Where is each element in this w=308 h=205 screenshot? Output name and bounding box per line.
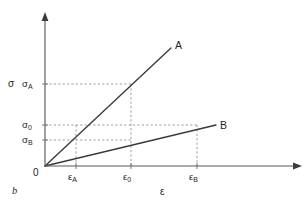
- curve-label-b: B: [220, 120, 227, 131]
- x-tick-label-epsilon-b: εB: [189, 172, 198, 182]
- origin-label-text: 0: [33, 167, 39, 178]
- y-tick-sigma-b-sub: B: [28, 139, 33, 146]
- y-tick-sigma-0-sub: 0: [28, 124, 32, 131]
- guide-lines: [45, 84, 197, 166]
- y-tick-sigma-a-base: σ: [22, 78, 28, 89]
- curve-b-line: [45, 125, 216, 166]
- y-tick-label-sigma-b: σB: [22, 135, 33, 145]
- data-curves: [45, 48, 216, 166]
- x-axis-arrow-icon: [293, 163, 302, 170]
- curve-label-b-text: B: [220, 119, 227, 131]
- y-tick-label-sigma-a: σA: [22, 79, 33, 89]
- x-tick-epsilon-b-sub: B: [193, 176, 198, 183]
- curve-a-line: [45, 48, 171, 166]
- curve-label-a: A: [175, 40, 182, 51]
- y-axis-label: σ: [8, 79, 14, 89]
- y-tick-label-sigma-0: σ0: [22, 120, 32, 130]
- x-tick-label-epsilon-a: εA: [68, 172, 77, 182]
- y-tick-sigma-a-sub: A: [28, 83, 33, 90]
- x-axis-label: ε: [160, 187, 164, 197]
- origin-label: 0: [33, 168, 39, 178]
- axes: [42, 12, 302, 169]
- figure-canvas: [0, 0, 308, 205]
- x-tick-label-epsilon-0: ε0: [123, 172, 131, 182]
- y-tick-sigma-b-base: σ: [22, 134, 28, 145]
- y-axis-label-text: σ: [8, 78, 14, 89]
- stress-strain-figure: σ σA σ0 σB 0 εA ε0 εB ε A B b: [0, 0, 308, 205]
- panel-letter-text: b: [12, 185, 17, 196]
- panel-letter: b: [12, 186, 17, 197]
- x-tick-epsilon-0-sub: 0: [127, 176, 131, 183]
- x-axis-label-text: ε: [160, 186, 164, 197]
- curve-label-a-text: A: [175, 39, 182, 51]
- x-tick-epsilon-a-sub: A: [72, 176, 77, 183]
- y-axis-arrow-icon: [42, 12, 49, 21]
- y-tick-sigma-0-base: σ: [22, 119, 28, 130]
